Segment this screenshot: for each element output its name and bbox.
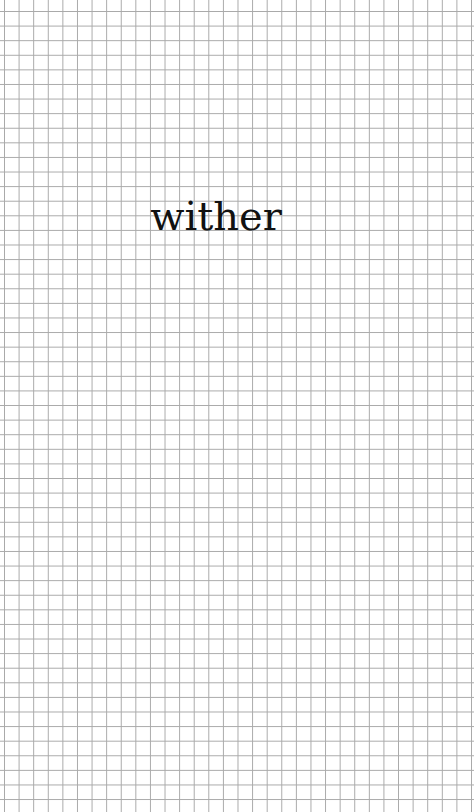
card-word: wither xyxy=(0,191,432,241)
flashcard: wither xyxy=(0,0,474,812)
